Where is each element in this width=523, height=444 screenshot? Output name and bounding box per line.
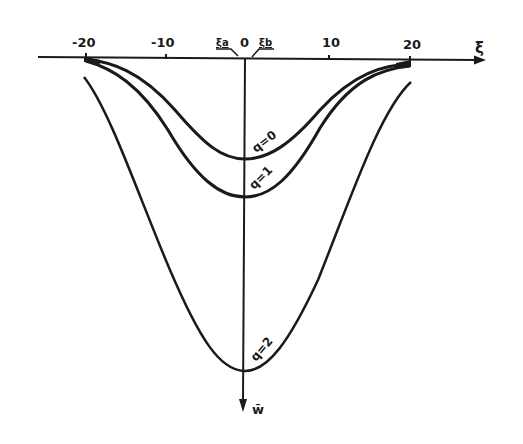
curve-join-right bbox=[396, 60, 411, 67]
tick-label: -10 bbox=[151, 35, 175, 50]
curve-q1 bbox=[86, 61, 410, 197]
xi-b-label: ξb bbox=[259, 37, 272, 48]
tick-label: 10 bbox=[322, 35, 340, 50]
tick-label: 20 bbox=[403, 37, 421, 52]
xi-a-leader bbox=[216, 49, 238, 56]
tick-label: -20 bbox=[72, 35, 96, 50]
tick-label: 0 bbox=[240, 35, 249, 50]
curve-label-q2: q=2 bbox=[248, 334, 276, 364]
w-axis-arrow-icon bbox=[239, 399, 247, 412]
curve-q0 bbox=[86, 59, 410, 159]
chart-canvas: -20 -10 0 10 20 ξ ξa ξb q=0 q=1 q=2 w̄ bbox=[0, 0, 523, 444]
xi-axis bbox=[38, 57, 478, 60]
w-axis-title: w̄ bbox=[252, 402, 264, 417]
curve-q2 bbox=[84, 77, 411, 371]
xi-b-leader bbox=[252, 49, 274, 57]
w-axis bbox=[243, 58, 245, 402]
xi-axis-title: ξ bbox=[475, 39, 484, 57]
xi-a-label: ξa bbox=[216, 37, 229, 48]
